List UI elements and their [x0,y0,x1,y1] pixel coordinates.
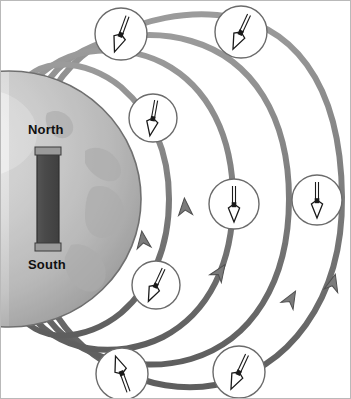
compass-pivot [150,116,155,122]
compass-far-right[interactable] [292,175,342,225]
bar-magnet-body [37,149,59,249]
compass-inner-upper[interactable] [129,94,177,142]
compass-bottom-left[interactable] [96,348,148,399]
field-direction-arrow [135,230,151,249]
compass-top-left[interactable] [95,8,147,60]
magnetic-field-figure: North South [0,0,351,399]
bar-magnet-south-cap [35,243,61,251]
compass-pivot [315,198,320,203]
bar-magnet-north-cap [35,147,61,155]
bar-magnet [35,147,61,251]
south-pole-label: South [28,257,66,272]
field-direction-arrow [281,288,302,310]
field-direction-arrow [177,198,192,216]
compass-inner-lower[interactable] [132,261,180,309]
earth-globe [1,71,141,327]
compass-top-right[interactable] [215,6,267,58]
compass-bottom-right[interactable] [213,346,265,398]
north-pole-label: North [28,122,64,137]
compass-mid-right[interactable] [209,179,259,229]
magnetic-field-diagram [1,1,351,399]
earth-shadow [9,71,141,327]
compass-pivot [232,202,237,207]
